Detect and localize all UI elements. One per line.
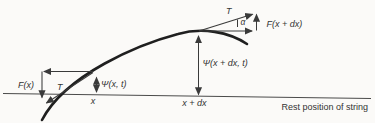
rest-position-label: Rest position of string bbox=[281, 102, 368, 112]
string-curve bbox=[42, 31, 247, 120]
force-right-label: F(x + dx) bbox=[267, 19, 303, 29]
diagram-canvas: F(x) T Ψ(x, t) x T α F(x + dx) Ψ(x + dx,… bbox=[0, 0, 375, 123]
position-right-label: x + dx bbox=[181, 98, 207, 108]
tension-left-label: T bbox=[57, 82, 64, 92]
angle-label: α bbox=[241, 17, 247, 27]
force-left-label: F(x) bbox=[18, 80, 34, 90]
position-left-label: x bbox=[90, 96, 96, 106]
tension-right-label: T bbox=[226, 6, 233, 16]
tension-vector-left-arrow bbox=[47, 73, 94, 104]
displacement-right-label: Ψ(x + dx, t) bbox=[203, 58, 248, 68]
string-displacement-diagram: F(x) T Ψ(x, t) x T α F(x + dx) Ψ(x + dx,… bbox=[0, 0, 375, 123]
displacement-left-label: Ψ(x, t) bbox=[101, 79, 126, 89]
